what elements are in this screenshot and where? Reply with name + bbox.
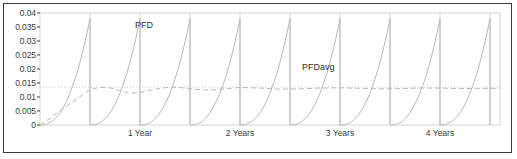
x-axis-tick-label: 3 Years	[310, 129, 370, 138]
y-axis-tick-label: 0.025	[0, 51, 36, 59]
series-label-pfd: PFD	[135, 21, 153, 30]
x-axis-tick-label: 4 Years	[410, 129, 470, 138]
y-axis-tick-label: 0.02	[0, 65, 36, 73]
y-axis-tick-label: 0.01	[0, 93, 36, 101]
y-axis-tick-label: 0.04	[0, 9, 36, 17]
y-axis-tick-label: 0.03	[0, 37, 36, 45]
plot-area-border	[40, 13, 500, 125]
series-label-pfdavg: PFDavg	[302, 63, 335, 72]
y-axis-tick-label: 0.005	[0, 107, 36, 115]
y-axis-tick-label: 0	[0, 121, 36, 129]
x-axis-tick-label: 2 Years	[210, 129, 270, 138]
plot-background	[40, 13, 500, 125]
x-axis-tick-label: 1 Year	[110, 129, 170, 138]
y-axis-tick-label: 0.015	[0, 79, 36, 87]
y-axis-tick-label: 0.035	[0, 23, 36, 31]
